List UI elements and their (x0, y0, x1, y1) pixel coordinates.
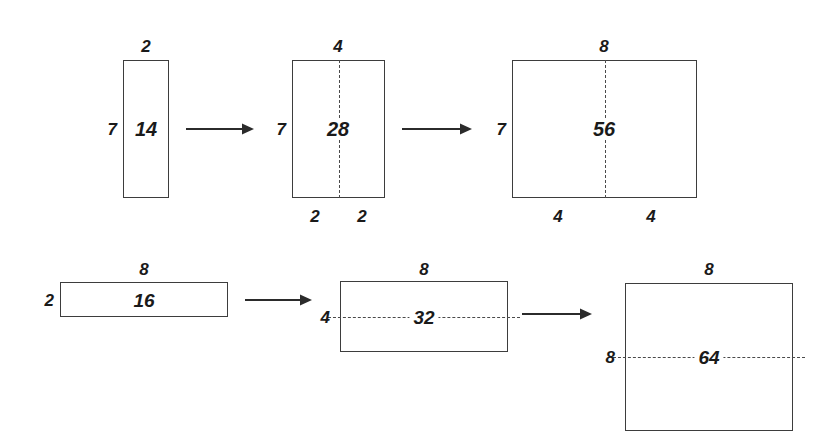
arrow-step-5-to-step-6 (522, 307, 592, 321)
top-label-step-1: 2 (141, 38, 150, 55)
left-label-step-3: 7 (497, 121, 506, 138)
area-label-step-2: 28 (323, 119, 353, 139)
left-label-step-5: 4 (321, 309, 330, 326)
area-label-step-4: 16 (133, 291, 154, 310)
bottom-label-step-2-right: 2 (357, 208, 366, 225)
area-label-step-5: 32 (409, 308, 438, 327)
top-label-step-2: 4 (333, 38, 342, 55)
arrow-step-1-to-step-2 (186, 122, 254, 136)
bottom-label-step-3-right: 4 (646, 208, 655, 225)
top-label-step-4: 8 (139, 261, 148, 278)
area-label-step-6: 64 (694, 348, 723, 367)
diagram-canvas: 2 7 14 4 7 28 2 2 8 7 56 4 4 8 2 16 (0, 0, 833, 440)
area-label-step-3: 56 (589, 119, 619, 139)
bottom-label-step-2-left: 2 (310, 208, 319, 225)
area-label-step-1: 14 (135, 119, 157, 139)
bottom-label-step-3-left: 4 (553, 208, 562, 225)
arrow-step-4-to-step-5 (245, 293, 312, 307)
top-label-step-3: 8 (599, 38, 608, 55)
left-label-step-2: 7 (277, 121, 286, 138)
top-label-step-5: 8 (419, 261, 428, 278)
left-label-step-4: 2 (45, 292, 54, 309)
left-label-step-6: 8 (606, 349, 615, 366)
top-label-step-6: 8 (704, 261, 713, 278)
arrow-step-2-to-step-3 (402, 122, 472, 136)
left-label-step-1: 7 (108, 121, 117, 138)
